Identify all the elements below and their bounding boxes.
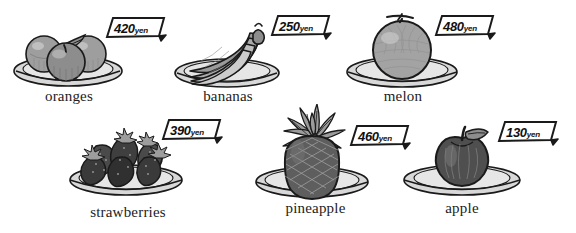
fruit-label-melon: melon — [348, 88, 458, 104]
price-unit-bananas: yen — [300, 24, 313, 33]
price-tag-value-strawberries: 390yen — [170, 121, 204, 139]
fruit-price-illustration: oranges 420yen — [0, 0, 576, 233]
price-tag-apple: 130yen — [496, 118, 562, 148]
price-tag-melon: 480yen — [433, 12, 499, 42]
price-number-bananas: 250 — [279, 19, 300, 34]
price-tag-bananas: 250yen — [269, 12, 335, 42]
price-number-strawberries: 390 — [170, 123, 191, 138]
fruit-item-apple: apple 130yen — [398, 120, 574, 222]
fruit-label-bananas: bananas — [167, 88, 289, 104]
fruit-item-strawberries: strawberries 390yen — [60, 122, 240, 222]
fruit-item-bananas: bananas 250yen — [165, 18, 335, 104]
price-number-pineapple: 460 — [358, 129, 379, 144]
price-tag-value-oranges: 420yen — [114, 19, 148, 37]
price-number-oranges: 420 — [114, 21, 135, 36]
price-tag-strawberries: 390yen — [160, 116, 226, 146]
fruit-label-oranges: oranges — [8, 88, 130, 104]
price-tag-value-bananas: 250yen — [279, 17, 313, 35]
price-tag-value-melon: 480yen — [443, 17, 477, 35]
price-number-apple: 130 — [506, 125, 527, 140]
price-tag-value-pineapple: 460yen — [358, 127, 392, 145]
fruit-label-apple: apple — [408, 200, 516, 216]
price-unit-apple: yen — [527, 130, 540, 139]
price-unit-pineapple: yen — [379, 134, 392, 143]
price-tag-oranges: 420yen — [104, 14, 170, 44]
price-number-melon: 480 — [443, 19, 464, 34]
fruit-item-oranges: oranges 420yen — [8, 18, 168, 104]
price-unit-strawberries: yen — [191, 128, 204, 137]
fruit-label-strawberries: strawberries — [58, 204, 198, 220]
price-tag-value-apple: 130yen — [506, 123, 540, 141]
price-unit-oranges: yen — [135, 26, 148, 35]
fruit-item-melon: melon 480yen — [340, 10, 520, 104]
fruit-label-pineapple: pineapple — [258, 200, 373, 216]
price-unit-melon: yen — [464, 24, 477, 33]
